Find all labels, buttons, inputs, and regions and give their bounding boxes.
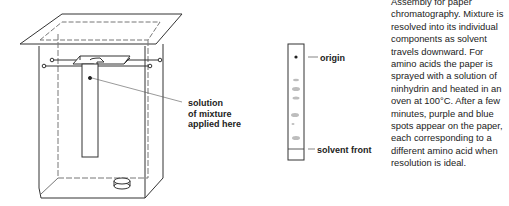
caption-text: Assembly for paper chromatography. Mixtu… — [391, 0, 509, 170]
application-spot — [88, 76, 91, 79]
tank-lid — [20, 14, 182, 44]
label-line: solution — [188, 98, 241, 109]
label-solvent-front: solvent front — [317, 145, 372, 156]
figure-caption: Assembly for paper chromatography. Mixtu… — [391, 0, 509, 170]
label-line: applied here — [188, 119, 241, 130]
origin-spot — [294, 55, 297, 58]
developed-strip — [288, 44, 318, 160]
label-origin: origin — [320, 53, 345, 64]
label-line: of mixture — [188, 109, 241, 120]
label-application: solution of mixture applied here — [188, 98, 241, 130]
